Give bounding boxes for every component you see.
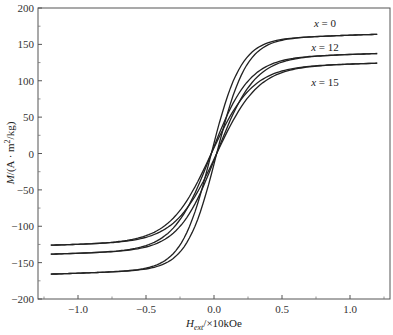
x-tick-label: 0.0 [207,303,221,315]
curve-label: x = 0 [313,17,337,29]
y-tick-label: −150 [11,257,34,269]
curve-x-0-descending [51,34,377,274]
curve-x-15-ascending [51,63,377,245]
hysteresis-chart: 200150100500−50−100−150−200 −1.0−0.50.00… [0,0,393,335]
y-tick-label: −200 [11,293,34,305]
x-tick-label: −1.0 [68,303,88,315]
x-axis-title: Hext/×10kOe [185,317,242,332]
x-tick-label: 0.5 [275,303,289,315]
y-tick-label: −100 [11,220,34,232]
x-tick-label: −0.5 [136,303,156,315]
x-axis: −1.0−0.50.00.51.0 [44,295,384,315]
curve-label: x = 15 [310,76,339,88]
curve-x-0-ascending [51,34,377,274]
y-tick-label: 100 [18,75,35,87]
curve-x-15-descending [51,63,377,245]
y-tick-label: 150 [18,38,35,50]
y-tick-label: −50 [17,184,35,196]
curves [51,34,377,274]
y-tick-label: 200 [18,2,35,14]
y-tick-label: 0 [29,148,35,160]
y-axis-title: M/(A · m2/kg) [3,121,17,185]
x-tick-label: 1.0 [343,303,357,315]
curve-label: x = 12 [310,41,339,53]
curve-labels: x = 0x = 12x = 15 [310,17,339,88]
y-tick-label: 50 [23,111,35,123]
